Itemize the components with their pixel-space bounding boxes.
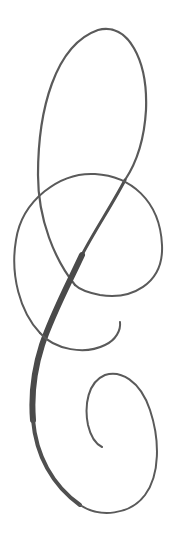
flourish-canvas: Calligraphic flourish xyxy=(0,0,177,540)
main-stem-taper xyxy=(33,420,80,505)
top-loop xyxy=(38,29,146,285)
flourish-illustration xyxy=(0,0,177,540)
main-stem-thick xyxy=(32,255,82,420)
middle-loop xyxy=(14,174,162,333)
bottom-spiral xyxy=(80,374,157,513)
main-stem xyxy=(82,180,125,255)
